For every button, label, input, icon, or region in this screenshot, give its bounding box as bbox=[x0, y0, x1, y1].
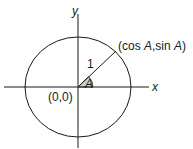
unit-circle-diagram: y x (0,0) 1 A (cos A,sin A) bbox=[0, 0, 193, 149]
x-axis-label: x bbox=[151, 80, 159, 94]
point-label: (cos A,sin A) bbox=[118, 39, 186, 53]
y-axis-label: y bbox=[71, 4, 79, 18]
radius-line bbox=[78, 51, 116, 87]
origin-label: (0,0) bbox=[48, 90, 73, 104]
angle-label: A bbox=[84, 77, 93, 91]
radius-label: 1 bbox=[87, 57, 94, 71]
